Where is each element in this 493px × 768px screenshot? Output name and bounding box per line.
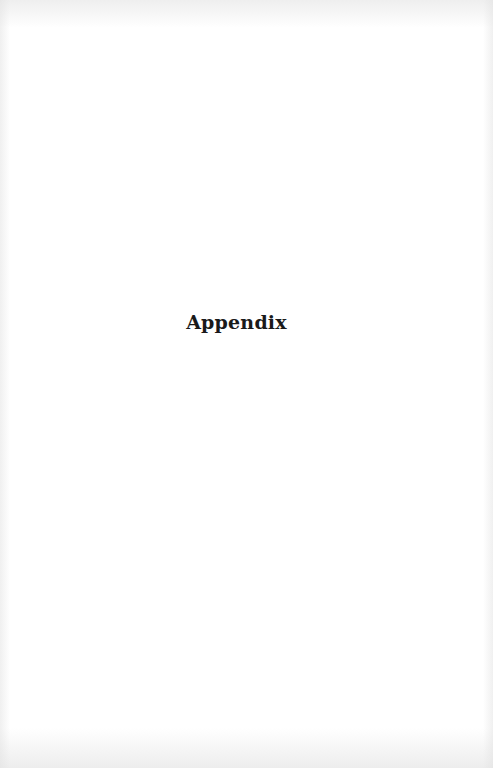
section-heading: Appendix: [0, 311, 473, 333]
scan-edge-left: [0, 0, 10, 768]
scan-edge-bottom: [0, 728, 493, 768]
document-page: Appendix: [0, 0, 493, 768]
scan-edge-right: [483, 0, 493, 768]
scan-edge-top: [0, 0, 493, 28]
